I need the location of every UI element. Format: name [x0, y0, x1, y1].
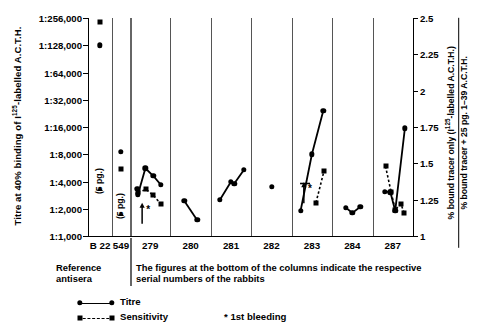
data-series-layer	[88, 18, 413, 236]
y-axis-right-tick-label: 1.5	[420, 158, 433, 169]
y-axis-left-title: Titre at 40% binding of I125-labelled A.…	[11, 11, 23, 241]
sensitivity-point	[144, 187, 149, 192]
y-axis-left-tick-label: 1:128,000	[39, 40, 82, 51]
y-axis-left-tick	[83, 236, 88, 237]
x-axis-label-282: 282	[263, 240, 279, 251]
x-axis-label-281: 281	[223, 240, 239, 251]
y-axis-left-tick-label: 1:2,000	[49, 203, 82, 214]
first-bleeding-arrow	[140, 203, 145, 224]
y-axis-right-tick-label: 1.75	[420, 122, 439, 133]
sensitivity-point	[313, 200, 318, 205]
y-axis-right-tick	[413, 54, 418, 55]
titre-line	[385, 128, 405, 211]
y-axis-right-tick	[413, 163, 418, 164]
sensitivity-point	[119, 167, 124, 172]
y-axis-left-tick-label: 1:256,000	[39, 13, 82, 24]
plot-area: 1:256,0001:128,0001:64,0001:32,0001:16,0…	[88, 18, 413, 236]
y-axis-left-tick-label: 1:32,000	[44, 94, 82, 105]
sensitivity-point	[136, 190, 141, 195]
sensitivity-point	[158, 202, 163, 207]
x-axis-label-284: 284	[344, 240, 360, 251]
sensitivity-point	[383, 164, 388, 169]
y-axis-left-tick-label: 1:4,000	[49, 176, 82, 187]
y-axis-right-tick	[413, 200, 418, 201]
legend-circle-marker	[109, 300, 114, 305]
sensitivity-point	[151, 193, 156, 198]
legend-label-sensitivity: Sensitivity	[120, 311, 168, 322]
y-axis-right-title: % bound tracer only (I125-labelled A.C.T…	[444, 18, 470, 248]
pg-label: (5 pg.)	[94, 168, 104, 194]
y-axis-left-tick-label: 1:16,000	[44, 122, 82, 133]
y-axis-right-tick-label: 2	[420, 85, 425, 96]
caption-rabbit-serials: The figures at the bottom of the columns…	[136, 262, 426, 285]
y-axis-right-tick	[413, 236, 418, 237]
y-axis-left-tick-label: 1:64,000	[44, 67, 82, 78]
sensitivity-point	[393, 207, 398, 212]
legend-label-first-bleeding: * 1st bleeding	[224, 311, 286, 322]
legend-circle-marker	[77, 300, 82, 305]
sensitivity-point	[389, 190, 394, 195]
x-axis-line	[88, 236, 413, 237]
x-axis-label-b-22: B 22	[90, 240, 111, 251]
pg-label: (5 pg.)	[115, 193, 125, 219]
x-axis-label-287: 287	[385, 240, 401, 251]
sensitivity-line	[316, 171, 324, 203]
y-axis-right-tick-label: 2.5	[420, 13, 433, 24]
y-axis-right-tick-label: 2.25	[420, 49, 439, 60]
titre-line	[137, 168, 160, 194]
y-axis-left-tick-label: 1:8,000	[49, 149, 82, 160]
sensitivity-point	[398, 202, 403, 207]
legend-label-titre: Titre	[120, 296, 141, 307]
sensitivity-point	[322, 168, 327, 173]
y-axis-right-tick	[413, 18, 418, 19]
caption-reference-antisera: Reference antisera	[56, 262, 128, 285]
y-axis-right-tick	[413, 91, 418, 92]
x-axis-label-280: 280	[182, 240, 198, 251]
x-axis-label-549: 549	[113, 240, 129, 251]
sensitivity-point	[402, 210, 407, 215]
first-bleeding-asterisk: *	[146, 203, 150, 214]
sensitivity-point	[98, 20, 103, 25]
figure-root: Titre at 40% binding of I125-labelled A.…	[0, 0, 499, 332]
legend-square-marker	[78, 315, 83, 320]
first-bleeding-asterisk: *	[308, 183, 312, 194]
y-axis-left-tick-label: 1:1,000	[49, 231, 82, 242]
y-axis-right-tick-label: 1	[420, 231, 425, 242]
y-axis-right-tick	[413, 127, 418, 128]
x-axis-label-283: 283	[304, 240, 320, 251]
x-axis-label-279: 279	[142, 240, 158, 251]
y-axis-right-tick-label: 1.25	[420, 194, 439, 205]
legend-square-marker	[110, 315, 115, 320]
caption-divider	[130, 238, 132, 286]
